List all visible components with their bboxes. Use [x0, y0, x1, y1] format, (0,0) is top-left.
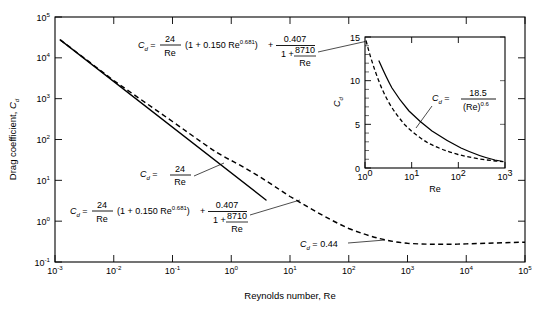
svg-text:8710: 8710 — [295, 45, 315, 55]
svg-text:Re: Re — [174, 177, 186, 187]
svg-text:Cd =: Cd = — [70, 206, 88, 218]
x-tick-label: 102 — [342, 264, 356, 276]
drag-coefficient-chart: 10-3 10-2 10-1 100 101 102 103 104 — [0, 0, 545, 316]
svg-text:Re: Re — [231, 224, 243, 234]
y-axis-tick-labels: 105 104 103 102 101 100 10-1 — [34, 11, 50, 268]
svg-text:24: 24 — [175, 164, 185, 174]
x-tick-label: 10-2 — [106, 264, 122, 276]
y-axis-title: Drag coefficient, Cd — [7, 98, 20, 180]
svg-text:1 +: 1 + — [213, 215, 226, 225]
inset-y-tick-label: 5 — [355, 120, 360, 130]
x-tick-label: 101 — [283, 264, 297, 276]
annotation-full-correlation-bottom: Cd = 24 Re (1 + 0.150 Re0.681) + 0.407 1… — [70, 200, 248, 234]
inset-y-tick-label: 15 — [350, 33, 360, 43]
inset-y-tick-labels: 15 10 5 0 — [350, 33, 360, 174]
y-tick-label: 100 — [37, 215, 51, 227]
svg-text:Cd =: Cd = — [138, 40, 156, 52]
svg-text:(1 + 0.150 Re0.681): (1 + 0.150 Re0.681) — [117, 205, 190, 216]
x-tick-label: 104 — [460, 264, 474, 276]
svg-text:Cd =: Cd = — [140, 169, 158, 181]
x-axis-tick-labels: 10-3 10-2 10-1 100 101 102 103 104 — [47, 264, 532, 276]
annotation-full-correlation-top: Cd = 24 Re (1 + 0.150 Re0.681) + 0.407 1… — [138, 34, 316, 68]
y-tick-label: 101 — [37, 174, 51, 186]
x-tick-label: 100 — [225, 264, 239, 276]
y-tick-label: 102 — [37, 133, 51, 145]
y-tick-label: 103 — [37, 92, 51, 104]
x-tick-label: 10-3 — [47, 264, 63, 276]
inset-y-axis-title: Cd — [332, 96, 344, 107]
svg-text:Re: Re — [299, 58, 311, 68]
inset-x-tick-label: 103 — [497, 168, 512, 182]
x-tick-label: 10-1 — [165, 264, 181, 276]
svg-text:(1 + 0.150 Re0.681): (1 + 0.150 Re0.681) — [185, 39, 258, 50]
svg-text:1 +: 1 + — [281, 49, 294, 59]
svg-text:Drag coefficient, Cd: Drag coefficient, Cd — [7, 98, 20, 180]
y-tick-label: 105 — [37, 11, 51, 23]
annotation-stokes-law: Cd = 24 Re — [140, 164, 191, 187]
inset-y-tick-label: 10 — [350, 76, 360, 86]
x-tick-label: 105 — [518, 264, 532, 276]
svg-text:Cd: Cd — [332, 96, 344, 107]
inset-x-tick-label: 101 — [404, 168, 419, 182]
svg-text:Re: Re — [96, 214, 108, 224]
svg-text:0.407: 0.407 — [216, 200, 239, 210]
inset-plot: 15 10 5 0 100 101 102 103 — [332, 33, 513, 195]
leader-top-equation — [318, 40, 372, 52]
inset-x-axis-title: Re — [429, 184, 441, 194]
leader-bottom-equation — [250, 200, 300, 215]
inset-x-tick-labels: 100 101 102 103 — [357, 168, 512, 182]
svg-text:24: 24 — [97, 200, 107, 210]
svg-text:+: + — [268, 40, 273, 50]
leader-stokes-law — [194, 163, 224, 176]
svg-text:0.407: 0.407 — [284, 34, 307, 44]
svg-text:24: 24 — [165, 34, 175, 44]
svg-text:Re: Re — [164, 48, 176, 58]
figure-root: 10-3 10-2 10-1 100 101 102 103 104 — [0, 0, 545, 316]
x-tick-label: 103 — [401, 264, 415, 276]
svg-text:18.5: 18.5 — [469, 88, 487, 98]
x-axis-title: Reynolds number, Re — [244, 290, 335, 301]
svg-text:8710: 8710 — [227, 211, 247, 221]
annotation-newton-regime: Cd = 0.44 — [300, 239, 338, 251]
leader-newton — [348, 240, 385, 243]
y-tick-label: 104 — [37, 51, 51, 63]
svg-text:+: + — [200, 206, 205, 216]
svg-text:Cd = 0.44: Cd = 0.44 — [300, 239, 338, 251]
curve-stokes-law — [60, 40, 266, 200]
inset-x-tick-label: 102 — [451, 168, 466, 182]
